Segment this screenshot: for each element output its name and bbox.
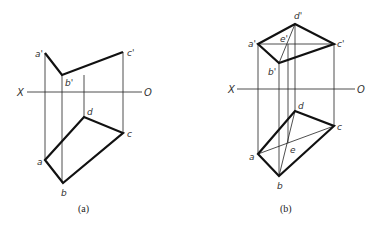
front-view-outline-a bbox=[45, 52, 123, 75]
label-a-prime: a' bbox=[35, 49, 43, 59]
label-c-prime-b: c' bbox=[337, 39, 344, 49]
axis-label-o-b: O bbox=[357, 84, 365, 95]
axis-label-o-a: O bbox=[144, 87, 152, 98]
label-e-prime: e' bbox=[280, 34, 288, 44]
caption-a: (a) bbox=[78, 203, 89, 215]
label-b-prime-b: b' bbox=[268, 67, 276, 77]
label-a-b: a bbox=[249, 152, 255, 162]
label-c: c bbox=[127, 129, 132, 139]
top-view-outline-b bbox=[258, 111, 334, 176]
figure-a: X O a' b' c' d c a b (a) bbox=[16, 48, 152, 215]
label-c-b: c bbox=[337, 122, 342, 132]
label-a-prime-b: a' bbox=[248, 39, 256, 49]
label-d: d bbox=[87, 107, 93, 117]
front-view-outline-b bbox=[258, 24, 334, 63]
axis-label-x-a: X bbox=[16, 87, 25, 98]
label-d-b: d bbox=[298, 101, 304, 111]
label-a: a bbox=[37, 157, 43, 167]
label-e: e bbox=[290, 145, 296, 155]
caption-b: (b) bbox=[280, 203, 292, 215]
projection-diagram: X O a' b' c' d c a b (a) X O bbox=[0, 0, 374, 229]
axis-label-x-b: X bbox=[227, 84, 236, 95]
label-c-prime: c' bbox=[127, 48, 134, 58]
label-d-prime: d' bbox=[294, 11, 302, 21]
label-b-b: b bbox=[277, 181, 283, 191]
top-view-outline-a bbox=[45, 117, 123, 183]
figure-b: X O d' a' e' c' b' d c e a b (b) bbox=[227, 11, 365, 215]
label-b: b bbox=[61, 188, 67, 198]
label-b-prime: b' bbox=[65, 78, 73, 88]
